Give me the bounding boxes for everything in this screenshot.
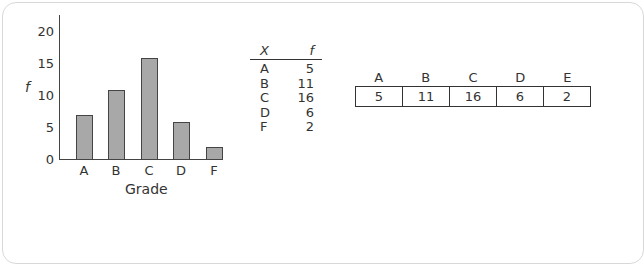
- y-axis-label: f: [25, 79, 30, 95]
- table-row: F 2: [250, 120, 322, 135]
- row-frequency: 11: [297, 77, 314, 92]
- row-grade: A: [260, 62, 269, 77]
- x-tick-b: B: [106, 163, 126, 178]
- row-grade: B: [260, 77, 269, 92]
- row-frequency: 6: [306, 106, 314, 121]
- row-frequency: 5: [306, 62, 314, 77]
- bar-d: [173, 122, 190, 160]
- x-tick-f: F: [204, 163, 224, 178]
- table-row: B 11: [250, 77, 322, 92]
- bar-b: [108, 90, 125, 160]
- x-tick-a: A: [74, 163, 94, 178]
- x-axis-label: Grade: [125, 181, 168, 197]
- value-cell: 6: [496, 87, 543, 106]
- row-grade: C: [260, 91, 269, 106]
- y-tick-0: 0: [30, 152, 54, 167]
- table-row: A 5: [250, 62, 322, 77]
- horizontal-table-headers: A B C D E: [355, 69, 591, 86]
- table-row: D 6: [250, 106, 322, 121]
- header-cell: B: [402, 69, 449, 86]
- horizontal-table-values: 5 11 16 6 2: [355, 86, 591, 107]
- value-cell: 2: [543, 87, 590, 106]
- bar-c: [141, 58, 158, 160]
- x-tick-c: C: [139, 163, 159, 178]
- header-cell: C: [449, 69, 496, 86]
- row-frequency: 16: [297, 91, 314, 106]
- header-cell: D: [497, 69, 544, 86]
- frequency-table-header: X f: [250, 44, 322, 58]
- horizontal-frequency-table: A B C D E 5 11 16 6 2: [355, 69, 591, 107]
- header-cell: E: [544, 69, 591, 86]
- value-cell: 16: [449, 87, 496, 106]
- column-header-x: X: [260, 44, 269, 58]
- y-tick-5: 5: [30, 120, 54, 135]
- row-grade: F: [260, 120, 267, 135]
- row-frequency: 2: [306, 120, 314, 135]
- bar-a: [76, 115, 93, 160]
- bar-f: [206, 147, 223, 160]
- figure-frame: [2, 2, 644, 264]
- header-cell: A: [355, 69, 402, 86]
- header-rule: [250, 59, 322, 60]
- y-axis: [59, 15, 60, 160]
- x-tick-d: D: [171, 163, 191, 178]
- y-tick-10: 10: [30, 88, 54, 103]
- table-row: C 16: [250, 91, 322, 106]
- y-tick-20: 20: [30, 24, 54, 39]
- frequency-table: X f A 5 B 11 C 16 D 6 F 2: [250, 44, 322, 135]
- value-cell: 11: [402, 87, 449, 106]
- column-header-f: f: [309, 44, 314, 58]
- y-tick-15: 15: [30, 56, 54, 71]
- row-grade: D: [260, 106, 270, 121]
- value-cell: 5: [356, 87, 402, 106]
